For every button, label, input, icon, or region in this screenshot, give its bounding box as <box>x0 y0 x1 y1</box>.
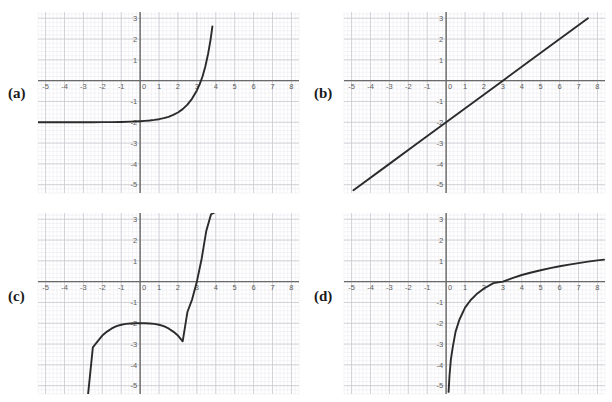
x-tick-label: -1 <box>118 283 125 292</box>
x-tick-label: 3 <box>501 82 505 91</box>
x-tick-label: 5 <box>539 82 543 91</box>
graph-panel-b: (b) -5-4-3-2-1012345678321-1-2-3-4-5 <box>306 0 612 201</box>
x-tick-label: -1 <box>424 283 431 292</box>
x-tick-label: -5 <box>348 283 355 292</box>
plot-a: -5-4-3-2-1012345678321-1-2-3-4-5 <box>0 0 306 201</box>
x-tick-label: -2 <box>99 283 106 292</box>
y-tick-label: -5 <box>130 180 137 189</box>
x-tick-label: 0 <box>142 283 146 292</box>
curve-d <box>449 260 604 392</box>
x-tick-label: 6 <box>558 82 562 91</box>
y-tick-label: -1 <box>436 97 443 106</box>
x-tick-label: -2 <box>405 82 412 91</box>
graph-panel-c: (c) -5-4-3-2-1012345678321-1-2-3-4-5 <box>0 201 306 402</box>
figure-panel-grid: (a) -5-4-3-2-1012345678321-1-2-3-4-5 (b)… <box>0 0 612 402</box>
y-tick-label: -4 <box>436 361 443 370</box>
y-tick-label: -5 <box>130 381 137 390</box>
x-tick-label: -3 <box>386 82 393 91</box>
y-tick-label: -1 <box>130 298 137 307</box>
y-tick-label: -3 <box>436 139 443 148</box>
x-tick-label: -2 <box>405 283 412 292</box>
y-tick-label: -4 <box>130 361 137 370</box>
x-tick-label: -4 <box>367 283 374 292</box>
x-tick-label: 8 <box>289 283 293 292</box>
y-tick-label: 2 <box>439 35 443 44</box>
y-tick-label: -3 <box>130 139 137 148</box>
x-tick-label: -5 <box>42 82 49 91</box>
x-tick-label: -4 <box>61 283 68 292</box>
plot-b: -5-4-3-2-1012345678321-1-2-3-4-5 <box>306 0 612 201</box>
y-tick-label: -5 <box>436 180 443 189</box>
x-tick-label: 5 <box>233 283 237 292</box>
x-tick-label: 8 <box>289 82 293 91</box>
x-tick-label: -2 <box>99 82 106 91</box>
x-tick-label: 7 <box>270 82 274 91</box>
y-tick-label: 2 <box>133 35 137 44</box>
x-tick-label: -3 <box>386 283 393 292</box>
x-tick-label: 1 <box>463 283 467 292</box>
y-tick-label: 3 <box>133 14 137 23</box>
x-tick-label: 6 <box>252 82 256 91</box>
x-tick-label: -4 <box>367 82 374 91</box>
y-tick-label: 1 <box>439 56 443 65</box>
x-tick-label: 7 <box>576 283 580 292</box>
x-tick-label: 7 <box>270 283 274 292</box>
y-tick-label: -2 <box>436 319 443 328</box>
y-tick-label: -1 <box>130 97 137 106</box>
x-tick-label: 4 <box>214 82 218 91</box>
x-tick-label: 6 <box>558 283 562 292</box>
y-tick-label: -3 <box>436 340 443 349</box>
x-tick-label: 2 <box>482 82 486 91</box>
x-tick-label: 8 <box>595 283 599 292</box>
y-tick-label: 3 <box>439 215 443 224</box>
y-tick-label: 2 <box>439 236 443 245</box>
major-gridlines <box>344 213 605 394</box>
x-tick-label: 2 <box>176 283 180 292</box>
x-tick-label: 4 <box>520 283 524 292</box>
x-tick-label: 0 <box>448 283 452 292</box>
graph-panel-d: (d) -5-4-3-2-1012345678321-1-2-3-4-5 <box>306 201 612 402</box>
y-tick-label: 3 <box>439 14 443 23</box>
x-tick-label: 8 <box>595 82 599 91</box>
x-tick-label: 5 <box>539 283 543 292</box>
x-tick-label: 0 <box>448 82 452 91</box>
plot-d: -5-4-3-2-1012345678321-1-2-3-4-5 <box>306 201 612 402</box>
x-tick-label: 1 <box>157 283 161 292</box>
x-tick-label: -4 <box>61 82 68 91</box>
y-tick-label: -4 <box>130 160 137 169</box>
x-tick-label: 2 <box>176 82 180 91</box>
x-tick-label: -5 <box>348 82 355 91</box>
x-tick-label: 0 <box>142 82 146 91</box>
major-gridlines <box>38 12 299 193</box>
y-tick-label: -5 <box>436 381 443 390</box>
x-tick-label: 1 <box>157 82 161 91</box>
y-tick-label: -1 <box>436 298 443 307</box>
x-tick-label: -3 <box>80 283 87 292</box>
y-tick-label: 1 <box>439 257 443 266</box>
y-tick-label: 2 <box>133 236 137 245</box>
x-tick-label: 4 <box>520 82 524 91</box>
y-tick-label: 1 <box>133 257 137 266</box>
y-tick-label: -3 <box>130 340 137 349</box>
x-tick-label: 5 <box>233 82 237 91</box>
x-tick-label: 3 <box>501 283 505 292</box>
x-tick-label: -3 <box>80 82 87 91</box>
major-gridlines <box>38 213 299 394</box>
x-tick-label: 7 <box>576 82 580 91</box>
x-tick-label: -1 <box>118 82 125 91</box>
y-tick-label: 1 <box>133 56 137 65</box>
curve-b <box>353 18 588 190</box>
y-tick-label: 3 <box>133 215 137 224</box>
graph-panel-a: (a) -5-4-3-2-1012345678321-1-2-3-4-5 <box>0 0 306 201</box>
y-tick-label: -4 <box>436 160 443 169</box>
x-tick-label: -1 <box>424 82 431 91</box>
plot-c: -5-4-3-2-1012345678321-1-2-3-4-5 <box>0 201 306 402</box>
x-tick-label: 1 <box>463 82 467 91</box>
x-tick-label: 6 <box>252 283 256 292</box>
x-tick-label: -5 <box>42 283 49 292</box>
x-tick-label: 4 <box>214 283 218 292</box>
